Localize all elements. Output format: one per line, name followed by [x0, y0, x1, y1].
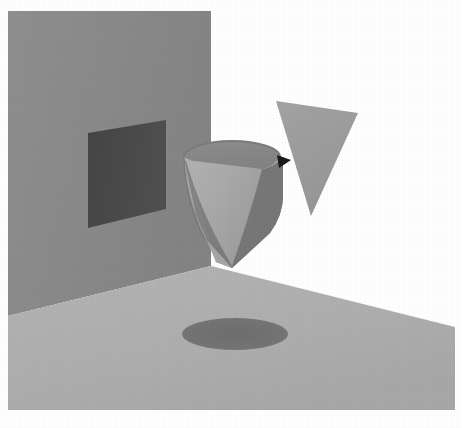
floor-shadow [182, 318, 288, 350]
wall-panel [88, 120, 166, 228]
scene-vector-layer [0, 0, 462, 428]
scene-canvas: 3D shapes scene grayscale rendered 3D ge… [0, 0, 462, 428]
